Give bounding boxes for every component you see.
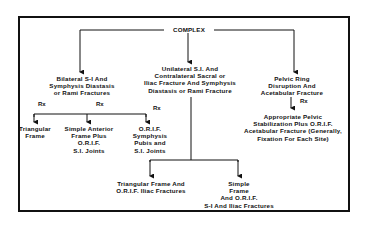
text-line: Frame <box>200 187 278 194</box>
branch-acetabular-title: Pelvic Ring Disruption And Acetabular Fr… <box>260 75 324 97</box>
text-line: Contralateral Sacral or <box>138 72 242 79</box>
text-line: S.I. Joints <box>130 147 170 154</box>
text-line: Simple <box>200 180 278 187</box>
text-line: Acetabular Fracture <box>260 89 324 96</box>
text-line: or Rami Fractures <box>40 89 124 96</box>
rx-label: Rx <box>300 98 308 104</box>
rx-label: Rx <box>96 101 104 107</box>
text-line: Diastasis or Rami Fracture <box>138 87 242 94</box>
text-line: Symphysis Diastasis <box>40 82 124 89</box>
text-line: And O.R.I.F. <box>200 194 278 201</box>
text-line: Bilateral S-I And <box>40 75 124 82</box>
text-line: Disruption And <box>260 82 324 89</box>
text-line: Unilateral S.I. And <box>138 65 242 72</box>
branch-unilateral-title: Unilateral S.I. And Contralateral Sacral… <box>138 65 242 94</box>
treatment-triangular-frame: Triangular Frame <box>16 125 54 139</box>
text-line: S-I And Iliac Fractures <box>200 202 278 209</box>
rx-label: Rx <box>38 101 46 107</box>
text-line: S.I. Joints <box>61 147 117 154</box>
text-line: Triangular <box>16 125 54 132</box>
treatment-triangular-frame-orif-iliac: Triangular Frame And O.R.I.F. Iliac Frac… <box>115 180 187 194</box>
text-line: Fixation For Each Site) <box>243 135 343 142</box>
treatment-orif-symphysis: O.R.I.F. Symphysis Pubis and S.I. Joints <box>130 125 170 154</box>
text-line: O.R.I.F. Iliac Fractures <box>115 187 187 194</box>
text-line: O.R.I.F. <box>61 139 117 146</box>
text-line: Triangular Frame And <box>115 180 187 187</box>
text-line: Appropriate Pelvic <box>243 113 343 120</box>
text-line: Stabilization Plus O.R.I.F. <box>243 120 343 127</box>
branch-bilateral-title: Bilateral S-I And Symphysis Diastasis or… <box>40 75 124 97</box>
root-node-complex: COMPLEX <box>164 26 214 33</box>
rx-label: Rx <box>153 105 161 111</box>
treatment-simple-frame-orif: Simple Frame And O.R.I.F. S-I And Iliac … <box>200 180 278 209</box>
text-line: Symphysis <box>130 132 170 139</box>
treatment-simple-anterior-frame: Simple Anterior Frame Plus O.R.I.F. S.I.… <box>61 125 117 154</box>
text-line: Frame Plus <box>61 132 117 139</box>
text-line: Frame <box>16 132 54 139</box>
text-line: Pubis and <box>130 139 170 146</box>
text-line: Simple Anterior <box>61 125 117 132</box>
text-line: Acetabular Fracture (Generally, <box>243 127 343 134</box>
text-line: Pelvic Ring <box>260 75 324 82</box>
treatment-pelvic-stabilization: Appropriate Pelvic Stabilization Plus O.… <box>243 113 343 142</box>
text-line: Iliac Fracture And Symphysis <box>138 79 242 86</box>
text-line: O.R.I.F. <box>130 125 170 132</box>
